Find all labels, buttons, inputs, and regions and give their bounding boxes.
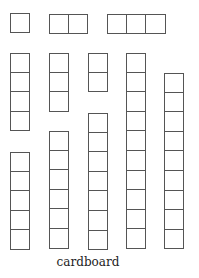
square-cell — [164, 132, 184, 152]
square-cell — [10, 230, 30, 250]
square-cell — [88, 152, 108, 172]
square-cell — [164, 73, 184, 93]
square-cell — [49, 170, 69, 190]
square-cell — [88, 211, 108, 231]
square-cell — [88, 172, 108, 192]
square-cell — [10, 73, 30, 93]
square-cell — [126, 229, 146, 249]
square-cell — [10, 13, 30, 33]
strip-6v — [49, 131, 69, 249]
square-cell — [88, 73, 108, 93]
square-cell — [49, 53, 69, 73]
strip-1h — [10, 13, 30, 33]
square-cell — [164, 171, 184, 191]
square-cell — [126, 92, 146, 112]
square-cell — [10, 211, 30, 231]
square-cell — [10, 53, 30, 73]
square-cell — [49, 151, 69, 171]
square-cell — [126, 151, 146, 171]
square-cell — [127, 14, 147, 34]
square-cell — [49, 209, 69, 229]
square-cell — [88, 133, 108, 153]
square-cell — [164, 93, 184, 113]
caption-label: cardboard — [0, 255, 176, 269]
square-cell — [126, 53, 146, 73]
square-cell — [164, 112, 184, 132]
square-cell — [69, 14, 89, 34]
strip-10v — [126, 53, 146, 249]
square-cell — [126, 112, 146, 132]
square-cell — [49, 92, 69, 112]
square-cell — [49, 190, 69, 210]
square-cell — [10, 191, 30, 211]
square-cell — [126, 131, 146, 151]
square-cell — [10, 92, 30, 112]
square-cell — [126, 210, 146, 230]
square-cell — [126, 190, 146, 210]
square-cell — [10, 112, 30, 132]
strip-5v — [10, 152, 30, 250]
square-cell — [88, 113, 108, 133]
square-cell — [126, 73, 146, 93]
strip-3h — [107, 14, 166, 34]
square-cell — [49, 131, 69, 151]
strip-9v — [164, 73, 184, 249]
square-cell — [146, 14, 166, 34]
square-cell — [10, 152, 30, 172]
strip-3v — [49, 53, 69, 112]
square-cell — [49, 229, 69, 249]
square-cell — [107, 14, 127, 34]
square-cell — [126, 171, 146, 191]
square-cell — [88, 53, 108, 73]
square-cell — [164, 191, 184, 211]
square-cell — [49, 73, 69, 93]
square-cell — [49, 14, 69, 34]
square-cell — [164, 230, 184, 250]
strip-2v — [88, 53, 108, 92]
strip-7v — [88, 113, 108, 250]
square-cell — [164, 151, 184, 171]
strip-4v — [10, 53, 30, 131]
square-cell — [88, 231, 108, 251]
square-cell — [88, 191, 108, 211]
strip-2h — [49, 14, 88, 34]
square-cell — [164, 210, 184, 230]
square-cell — [10, 172, 30, 192]
